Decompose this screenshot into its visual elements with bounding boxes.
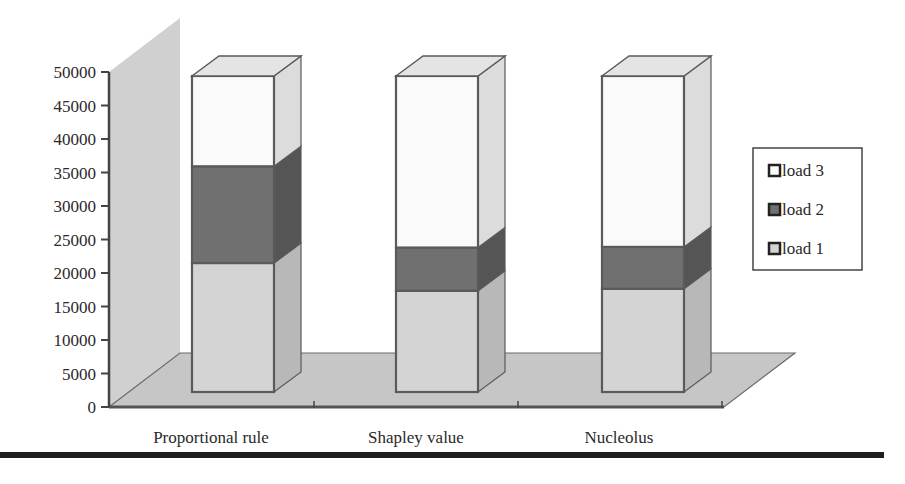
bar-segment-load-3	[396, 76, 478, 248]
bar-segment-load-2	[192, 166, 274, 263]
bar-segment-side	[478, 271, 505, 392]
bar-segment-load-1	[396, 291, 478, 392]
bar-segment-side	[478, 56, 505, 248]
bar-segment-load-3	[602, 76, 684, 247]
y-tick-label: 50000	[54, 63, 97, 82]
y-tick-label: 35000	[54, 164, 97, 183]
bar-segment-side	[684, 269, 711, 392]
y-tick-label: 40000	[54, 130, 97, 149]
bar-segment-load-3	[192, 76, 274, 166]
y-tick-label: 5000	[62, 365, 96, 384]
stacked-3d-bar-chart: 0500010000150002000025000300003500040000…	[0, 0, 905, 484]
bar-segment-load-2	[602, 247, 684, 289]
bar-segment-side	[274, 243, 301, 392]
x-category-label: Nucleolus	[585, 428, 654, 447]
y-tick-label: 15000	[54, 298, 97, 317]
bar-segment-load-1	[602, 289, 684, 392]
y-tick-label: 25000	[54, 231, 97, 250]
x-category-label: Shapley value	[368, 428, 464, 447]
legend: load 3load 2load 1	[753, 148, 862, 270]
bar-segment-load-2	[396, 248, 478, 291]
chart-back-wall	[109, 18, 180, 407]
bottom-rule	[0, 452, 884, 458]
bar-segment-load-1	[192, 263, 274, 392]
y-tick-label: 0	[88, 398, 97, 417]
bar-shapley-value	[396, 56, 505, 392]
legend-swatch-load-2	[769, 204, 780, 215]
legend-label: load 3	[782, 161, 824, 180]
x-category-label: Proportional rule	[153, 428, 269, 447]
legend-swatch-load-3	[769, 165, 780, 176]
legend-label: load 2	[782, 200, 824, 219]
bar-nucleolus	[602, 56, 711, 392]
y-tick-label: 10000	[54, 331, 97, 350]
bars	[192, 56, 711, 392]
y-tick-label: 45000	[54, 97, 97, 116]
legend-label: load 1	[782, 239, 824, 258]
y-tick-label: 30000	[54, 197, 97, 216]
legend-swatch-load-1	[769, 243, 780, 254]
bar-segment-side	[684, 56, 711, 247]
bar-proportional-rule	[192, 56, 301, 392]
y-axis: 0500010000150002000025000300003500040000…	[54, 63, 110, 417]
y-tick-label: 20000	[54, 264, 97, 283]
